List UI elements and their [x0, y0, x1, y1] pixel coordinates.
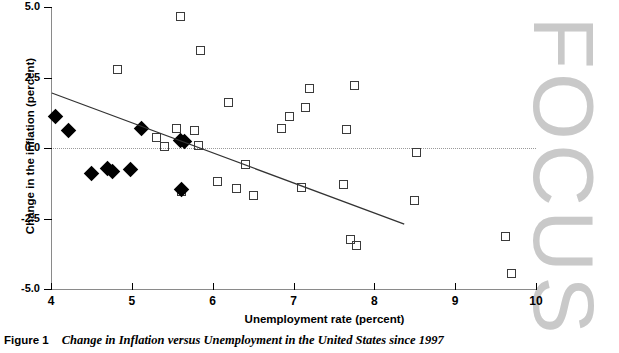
- x-tick-mark: [374, 283, 375, 290]
- x-tick-label: 7: [279, 295, 309, 307]
- x-tick-label: 5: [117, 295, 147, 307]
- x-tick-label: 9: [440, 295, 470, 307]
- y-tick-label: -5.0: [0, 283, 40, 294]
- x-tick-label: 8: [359, 295, 389, 307]
- y-tick-mark: [44, 7, 52, 8]
- y-tick-mark: [44, 148, 52, 149]
- y-tick-mark: [44, 78, 52, 79]
- y-axis-title: Change in the inflation (percent): [24, 31, 36, 261]
- x-tick-label: 4: [36, 295, 66, 307]
- x-tick-mark: [294, 283, 295, 290]
- x-axis-title: Unemployment rate (percent): [0, 313, 619, 325]
- figure-scatter-plot: 5.02.50.0-2.5-5.0 45678910 Change in the…: [0, 0, 619, 353]
- x-tick-mark: [455, 283, 456, 290]
- x-tick-label: 6: [198, 295, 228, 307]
- x-tick-mark: [132, 283, 133, 290]
- regression-line: [52, 93, 404, 224]
- x-axis-title-text: Unemployment rate (percent): [245, 313, 405, 325]
- x-tick-label: 10: [521, 295, 551, 307]
- y-tick-mark: [44, 219, 52, 220]
- x-tick-mark: [51, 283, 52, 290]
- y-tick-label: 5.0: [0, 1, 40, 12]
- x-tick-mark: [213, 283, 214, 290]
- x-tick-mark: [536, 283, 537, 290]
